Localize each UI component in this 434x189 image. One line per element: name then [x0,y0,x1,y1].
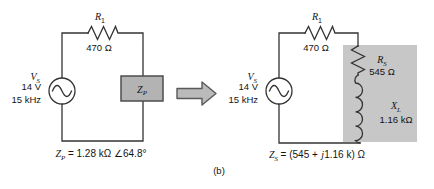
zp-equation: ZP= 1.28 kΩ ∠64.8° [56,148,147,162]
left-circuit: ZP R1 470 Ω VS 14 V 15 kHz ZP= 1.28 kΩ ∠… [11,11,163,162]
figure-caption: (b) [213,165,225,176]
r1-label: R1 [94,11,105,24]
circuit-figure: ZP R1 470 Ω VS 14 V 15 kHz ZP= 1.28 kΩ ∠… [0,0,434,189]
r1-value: 470 Ω [303,42,329,53]
wire [62,33,88,78]
wire [62,101,143,141]
right-circuit: R1 470 Ω VS 14 V 15 kHz RS 545 Ω XL 1.16… [228,11,417,163]
source-voltage: 14 V [238,81,258,92]
transform-arrow-icon [177,82,216,105]
xl-value: 1.16 kΩ [380,114,413,125]
source-voltage: 14 V [21,81,41,92]
r1-label: R1 [311,11,322,24]
rs-value: 545 Ω [369,66,395,77]
circuit-diagram-svg: ZP R1 470 Ω VS 14 V 15 kHz ZP= 1.28 kΩ ∠… [0,0,434,189]
source-frequency: 15 kHz [11,94,41,105]
r1-value: 470 Ω [86,42,112,53]
zs-equation: ZS= (545 +j1.16 k) Ω [269,149,365,163]
source-frequency: 15 kHz [228,94,258,105]
wire [279,33,305,79]
